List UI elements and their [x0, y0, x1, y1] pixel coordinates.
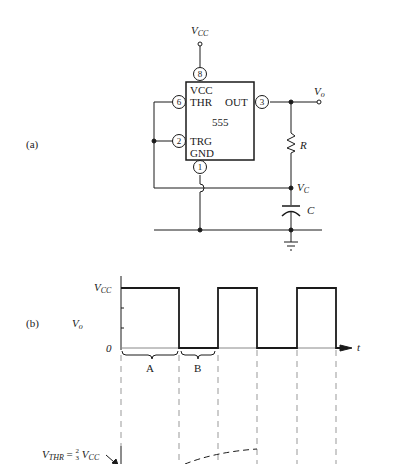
- vc-node-label: VC: [297, 182, 309, 195]
- pin-1: 1: [193, 160, 207, 174]
- vcc-level-main: V: [94, 281, 101, 293]
- capacitor-label: C: [307, 205, 314, 216]
- thr-vsub: CC: [89, 453, 100, 462]
- pin-8: 8: [193, 67, 207, 81]
- time-axis-label: t: [357, 342, 360, 353]
- thr-fraction: 23: [76, 448, 80, 462]
- chip-trg-text: TRG: [190, 136, 212, 147]
- zero-label: 0: [106, 343, 112, 354]
- thr-sub: THR: [49, 453, 64, 462]
- output-label: Vo: [314, 86, 325, 99]
- vcc-supply-label: VCC: [191, 25, 208, 38]
- vcc-main: V: [191, 24, 198, 36]
- thr-main: V: [42, 448, 49, 460]
- chip-out-text: OUT: [225, 97, 248, 108]
- resistor-label: R: [300, 140, 307, 151]
- interval-b-label: B: [194, 363, 201, 374]
- vcc-level-sub: CC: [101, 286, 112, 295]
- pin-2: 2: [172, 134, 186, 148]
- chip-thr-text: THR: [190, 97, 212, 108]
- chip-gnd-text: GND: [190, 148, 214, 159]
- thr-v: V: [82, 448, 89, 460]
- chip-vcc-text: VCC: [190, 85, 213, 96]
- part-a-label: (a): [26, 139, 38, 150]
- part-b-label: (b): [26, 318, 39, 329]
- vc-main: V: [297, 181, 304, 193]
- pin-3: 3: [255, 95, 269, 109]
- pin-6: 6: [172, 95, 186, 109]
- vo-axis-main: V: [72, 317, 79, 329]
- vc-sub: C: [304, 186, 309, 195]
- thr-den: 3: [76, 454, 80, 462]
- vo-main: V: [314, 85, 321, 97]
- chip-name: 555: [212, 117, 229, 128]
- vcc-sub: CC: [198, 29, 209, 38]
- thr-eq: =: [67, 448, 73, 460]
- threshold-label: VTHR = 23 VCC: [42, 448, 99, 462]
- interval-a-label: A: [146, 363, 154, 374]
- vcc-level-label: VCC: [94, 282, 111, 295]
- vo-sub: o: [321, 90, 325, 99]
- vo-axis-sub: o: [79, 322, 83, 331]
- vo-axis-label: Vo: [72, 318, 83, 331]
